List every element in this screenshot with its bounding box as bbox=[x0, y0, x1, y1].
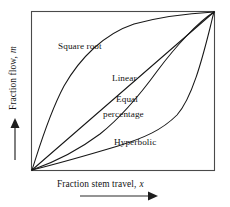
label-equal-percentage-line1: Equal bbox=[116, 94, 138, 104]
valve-characteristic-figure: Square root Linear Equal percentage Hype… bbox=[0, 0, 230, 207]
y-axis-label-symbol: m bbox=[8, 46, 18, 53]
label-square-root: Square root bbox=[58, 41, 102, 51]
label-linear: Linear bbox=[112, 73, 137, 83]
x-axis-label-symbol: x bbox=[138, 179, 144, 189]
label-equal-percentage-line2: percentage bbox=[103, 109, 144, 119]
arrow-up-icon bbox=[11, 118, 20, 160]
y-axis-label: Fraction flow,m bbox=[8, 46, 18, 110]
y-axis-label-text: Fraction flow, bbox=[8, 56, 18, 110]
x-axis-label-text: Fraction stem travel, bbox=[57, 179, 136, 189]
arrow-right-icon bbox=[80, 192, 158, 201]
x-axis-label: Fraction stem travel,x bbox=[57, 179, 144, 189]
label-hyperbolic: Hyperbolic bbox=[114, 137, 156, 147]
